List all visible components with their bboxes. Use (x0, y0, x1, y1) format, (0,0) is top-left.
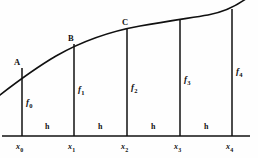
f-label-0: f0 (26, 98, 33, 109)
function-curve (0, 0, 252, 98)
x-label-4: x4 (226, 143, 233, 153)
point-a: A (14, 58, 20, 67)
point-b: B (68, 34, 74, 43)
h-label-2: h (151, 123, 155, 131)
f-label-3: f3 (184, 75, 191, 86)
figure-canvas (0, 0, 258, 158)
x-label-3: x3 (174, 143, 181, 153)
h-label-1: h (98, 123, 102, 131)
f-label-1: f1 (78, 85, 85, 96)
f-label-4: f4 (236, 67, 243, 78)
numerical-integration-figure: ABC f0f1f2f3f4 x0x1x2x3x4 hhhh (0, 0, 258, 158)
point-c: C (122, 18, 128, 27)
x-label-0: x0 (16, 143, 23, 153)
h-label-0: h (45, 123, 49, 131)
x-label-1: x1 (68, 143, 75, 153)
x-label-2: x2 (121, 143, 128, 153)
h-label-3: h (204, 123, 208, 131)
f-label-2: f2 (131, 83, 138, 94)
